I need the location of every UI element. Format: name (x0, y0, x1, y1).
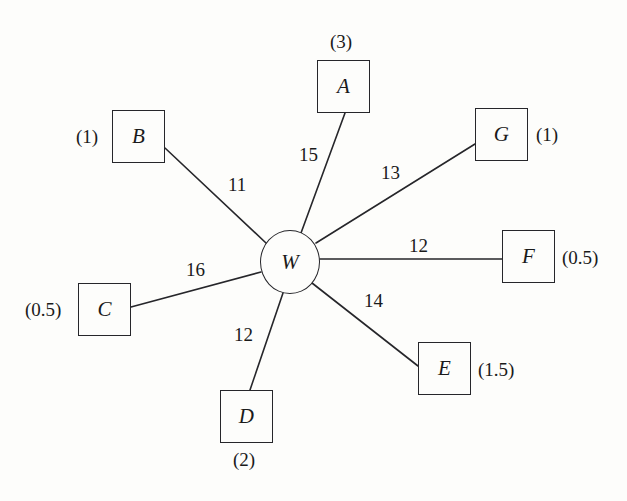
edge-label-w-d: 12 (234, 325, 253, 344)
node-c-weight: (0.5) (25, 300, 61, 319)
node-c-label: C (97, 299, 111, 320)
node-e-label: E (438, 358, 451, 379)
edge-w-d (250, 293, 283, 390)
node-d[interactable]: D (220, 390, 273, 443)
node-d-label: D (239, 406, 254, 427)
edge-label-w-f: 12 (409, 236, 428, 255)
node-b-weight: (1) (76, 127, 98, 146)
node-b-label: B (132, 126, 145, 147)
node-g-weight: (1) (536, 125, 558, 144)
edge-w-b (165, 148, 266, 243)
edge-label-w-g: 13 (381, 163, 400, 182)
node-g[interactable]: G (475, 108, 528, 161)
edge-label-w-c: 16 (186, 260, 205, 279)
node-a-label: A (337, 76, 350, 97)
edge-label-w-b: 11 (228, 175, 246, 194)
node-e-weight: (1.5) (478, 360, 514, 379)
node-g-label: G (494, 124, 509, 145)
node-a[interactable]: A (317, 60, 370, 113)
edge-label-w-e: 14 (364, 291, 383, 310)
node-d-weight: (2) (233, 450, 255, 469)
node-f-label: F (522, 246, 535, 267)
edge-w-g (316, 144, 475, 243)
edge-label-w-a: 15 (299, 145, 318, 164)
node-w-label: W (281, 252, 299, 273)
node-f-weight: (0.5) (562, 248, 598, 267)
node-a-weight: (3) (330, 32, 352, 51)
node-e[interactable]: E (418, 342, 471, 395)
node-w[interactable]: W (260, 230, 320, 294)
node-b[interactable]: B (112, 110, 165, 163)
edge-w-a (301, 113, 345, 233)
node-f[interactable]: F (502, 230, 555, 283)
diagram-canvas: A(3)B(1)C(0.5)D(2)E(1.5)F(0.5)G(1) W 151… (0, 0, 627, 501)
node-c[interactable]: C (78, 283, 131, 336)
